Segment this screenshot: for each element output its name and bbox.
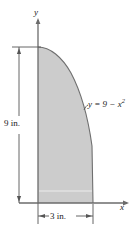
equation-exponent: 2	[122, 97, 125, 104]
width-arrowhead-left	[39, 214, 45, 218]
diagram-canvas	[0, 0, 136, 245]
height-arrowhead-bottom	[17, 196, 21, 202]
x-axis-label: x	[120, 203, 124, 212]
y-axis-label: y	[34, 8, 38, 17]
equation-base: y = 9 − x	[88, 99, 122, 109]
width-dimension-label: 3 in.	[50, 212, 66, 221]
height-arrowhead-top	[17, 48, 21, 54]
figure-container: y x 9 in. 3 in. y = 9 − x2	[0, 0, 136, 245]
height-dimension-label: 9 in.	[4, 119, 20, 128]
y-axis-arrowhead	[36, 18, 41, 24]
shaded-region	[38, 47, 93, 203]
curve-equation-label: y = 9 − x2	[88, 100, 125, 109]
width-arrowhead-right	[86, 214, 92, 218]
